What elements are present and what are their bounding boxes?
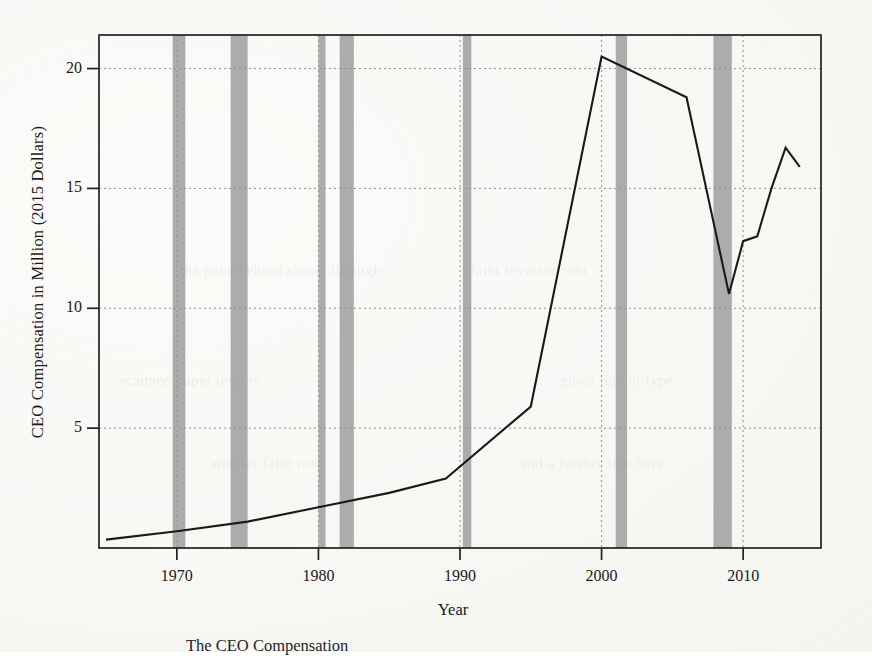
y-tick-label: 5 [42, 419, 82, 435]
recession-band [340, 35, 354, 548]
recession-band [173, 35, 186, 548]
data-series-line [106, 57, 800, 540]
y-tick-label: 15 [42, 179, 82, 195]
x-tick-label: 2000 [557, 567, 647, 585]
x-tick-label: 1970 [132, 567, 222, 585]
y-tick-label: 10 [42, 299, 82, 315]
recession-band-group [173, 35, 732, 548]
gridline-group [99, 35, 821, 548]
figure-caption: The CEO Compensation [186, 636, 348, 656]
x-axis-title: Year [0, 600, 872, 620]
y-tick-label: 20 [42, 60, 82, 76]
recession-band [318, 35, 325, 548]
x-tick-label: 2010 [698, 567, 788, 585]
recession-band [231, 35, 248, 548]
x-tick-label: 1990 [415, 567, 505, 585]
recession-band [616, 35, 627, 548]
y-tick-label-group: 5101520 [36, 0, 82, 652]
recession-band [463, 35, 471, 548]
x-axis-title-text: Year [438, 600, 468, 620]
x-tick-label: 1980 [273, 567, 363, 585]
